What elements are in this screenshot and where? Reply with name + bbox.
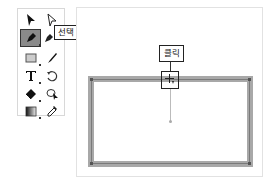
shape-builder-icon	[46, 88, 59, 100]
submenu-indicator	[39, 117, 41, 119]
eyedropper-tool[interactable]	[43, 103, 61, 119]
anchor-point-bottom-right[interactable]	[248, 162, 251, 165]
center-guide-line	[170, 89, 171, 121]
brush-icon	[46, 52, 58, 64]
eraser-tool[interactable]	[22, 86, 40, 102]
anchor-point-top-right[interactable]	[248, 78, 251, 81]
rectangle-tool[interactable]	[22, 50, 40, 66]
submenu-indicator	[39, 44, 41, 46]
rotate-icon	[46, 70, 58, 82]
pen-icon	[25, 32, 37, 44]
submenu-indicator	[39, 82, 41, 84]
pen-tool[interactable]	[20, 29, 41, 47]
click-target-highlight	[161, 71, 179, 89]
black-arrow-icon	[25, 13, 37, 27]
pen-plus-icon	[44, 32, 54, 44]
brush-tool[interactable]	[43, 50, 61, 66]
anchor-point-top-left[interactable]	[90, 78, 93, 81]
shape-builder-tool[interactable]	[43, 86, 61, 102]
anchor-point-bottom-left[interactable]	[90, 162, 93, 165]
tooltip-select: 선택	[54, 25, 78, 40]
type-tool[interactable]	[22, 68, 40, 84]
submenu-indicator	[39, 100, 41, 102]
click-callout: 클릭	[159, 45, 184, 62]
gradient-tool[interactable]	[22, 103, 40, 119]
type-icon	[25, 70, 37, 82]
eyedropper-icon	[46, 105, 58, 117]
center-point	[169, 120, 172, 123]
submenu-indicator	[39, 64, 41, 66]
pen-cursor-icon	[162, 72, 177, 87]
rotate-tool[interactable]	[43, 68, 61, 84]
gradient-icon	[25, 106, 37, 117]
selection-tool[interactable]	[22, 12, 40, 28]
rectangle-icon	[25, 53, 37, 63]
eraser-icon	[25, 88, 37, 100]
